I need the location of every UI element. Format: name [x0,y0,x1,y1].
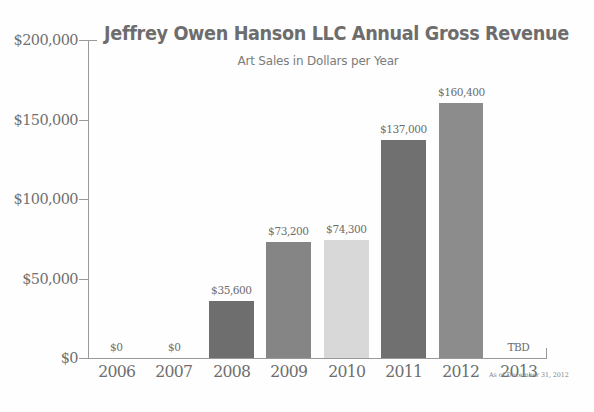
plot-area: $0$50,000$100,000$150,000$200,000 $0$0$3… [88,40,547,358]
bar-slot[interactable]: $0 [94,40,139,358]
bar-chart: Jeffrey Owen Hanson LLC Annual Gross Rev… [0,0,594,412]
bar-slot[interactable]: $35,600 [209,40,254,358]
bar-slot[interactable]: $73,200 [266,40,311,358]
x-axis-labels: 20062007200820092010201120122013 [88,362,547,388]
y-axis-tick [79,199,88,200]
bar-2011[interactable] [381,140,426,358]
bar-value-label: TBD [487,340,550,354]
bar-value-label: $0 [142,340,205,354]
y-axis-tick [79,358,88,359]
y-axis-tick-label: $200,000 [0,32,78,48]
bar-value-label: $35,600 [200,283,263,297]
bar-slot[interactable]: $0 [152,40,197,358]
bar-2008[interactable] [209,301,254,358]
bar-value-label: $73,200 [257,224,320,238]
chart-annotation: As of December 31, 2012 [489,371,569,379]
x-axis-label-2008: 2008 [204,362,259,381]
bars-layer: $0$0$35,600$73,200$74,300$137,000$160,40… [88,40,547,358]
bar-2010[interactable] [324,240,369,358]
x-axis-label-2007: 2007 [147,362,202,381]
bar-slot[interactable]: TBD [496,40,541,358]
bar-slot[interactable]: $160,400 [439,40,484,358]
x-axis-line [88,358,547,359]
bar-value-label: $160,400 [429,85,492,99]
bar-2012[interactable] [439,103,484,358]
bar-slot[interactable]: $74,300 [324,40,369,358]
bar-slot[interactable]: $137,000 [381,40,426,358]
bar-value-label: $137,000 [372,122,435,136]
y-axis-tick [79,120,88,121]
y-axis-tick-label: $150,000 [0,112,78,128]
y-axis-tick [79,40,88,41]
x-axis-label-2009: 2009 [262,362,317,381]
y-axis-tick [79,279,88,280]
bar-2009[interactable] [266,242,311,358]
y-axis-tick-label: $0 [0,350,78,366]
x-axis-label-2006: 2006 [89,362,144,381]
y-axis-tick-label: $50,000 [0,271,78,287]
x-axis-label-2010: 2010 [319,362,374,381]
x-axis-label-2012: 2012 [434,362,489,381]
y-axis-tick-label: $100,000 [0,191,78,207]
x-axis-label-2011: 2011 [376,362,431,381]
bar-value-label: $74,300 [315,222,378,236]
bar-value-label: $0 [85,340,148,354]
